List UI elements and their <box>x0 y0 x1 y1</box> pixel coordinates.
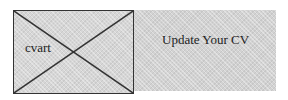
update-cv-link[interactable]: Update Your CV <box>162 33 249 46</box>
image-alt-text: cvart <box>25 41 51 54</box>
cv-image-placeholder[interactable]: cvart <box>13 10 134 94</box>
cv-update-panel[interactable] <box>134 10 276 91</box>
